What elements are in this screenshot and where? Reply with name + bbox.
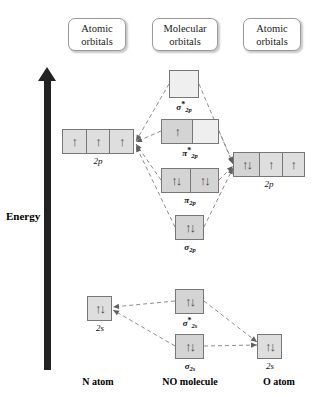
mo-sigma-2p-cell-0: ↑↓ [176, 216, 203, 239]
correlation-line-2 [136, 131, 161, 142]
mo-sigma-2s-star-cell-0: ↑↓ [176, 290, 203, 313]
mo-pi-2p-star-label-subscript: 2p [191, 152, 198, 159]
mo-sigma-2s-star-label-subscript: 2s [192, 322, 198, 329]
ao-o-2s-box: ↑↓ [257, 334, 282, 359]
ao-o-2p-cell-2-single-electron: ↑ [291, 158, 297, 171]
ao-n-2p-cell-2: ↑ [110, 130, 133, 153]
ao-n-2p-cell-1: ↑ [87, 130, 111, 153]
mo-pi-2p-star-label: π*2p [165, 146, 215, 159]
correlation-line-8 [113, 301, 175, 307]
ao-n-2p-label: 2p [73, 156, 123, 166]
ao-n-2s-box: ↑↓ [87, 296, 112, 321]
mo-pi-2p-label-subscript: 2p [189, 199, 196, 206]
mo-pi-2p-cell-1: ↑↓ [191, 169, 219, 192]
ao-o-2p-cell-1: ↑ [260, 153, 283, 176]
mo-pi-2p-label: π2p [165, 195, 215, 206]
mo-sigma-2s-label-subscript: 2s [190, 365, 196, 372]
ao-o-2p-cell-0: ↑↓ [234, 153, 260, 176]
ao-o-2p-cell-1-single-electron: ↑ [268, 158, 274, 171]
mo-sigma-2p-box: ↑↓ [175, 215, 204, 240]
header-box-2: Atomicorbitals [243, 18, 301, 51]
mo-sigma-2p-cell-0-paired-electrons: ↑↓ [185, 221, 194, 234]
caption-0: N atom [62, 376, 134, 387]
ao-o-2s-label: 2s [245, 361, 295, 371]
header-line-2: orbitals [244, 36, 300, 49]
energy-axis-bar [44, 80, 51, 370]
ao-n-2s-cell-0: ↑↓ [88, 297, 111, 320]
ao-o-2s-cell-0: ↑↓ [258, 335, 281, 358]
mo-sigma-2p-star-label-subscript: 2p [185, 106, 192, 113]
correlation-arrowhead-icon-10 [113, 310, 119, 315]
mo-pi-2p-cell-0-paired-electrons: ↑↓ [171, 174, 180, 187]
mo-sigma-2p-label-subscript: 2p [189, 246, 196, 253]
correlation-arrowhead-icon-2 [136, 137, 143, 142]
header-line-1: Atomic [244, 23, 300, 36]
ao-o-2p-cell-2: ↑ [283, 153, 305, 176]
correlation-arrowhead-icon-6 [136, 146, 141, 153]
ao-o-2p-box: ↑↓↑↑ [233, 152, 305, 177]
correlation-line-11 [204, 345, 257, 346]
mo-sigma-2p-star-label: σ*2p [159, 100, 209, 113]
header-box-0: Atomicorbitals [68, 18, 126, 51]
header-line-2: orbitals [69, 36, 125, 49]
correlation-arrowhead-icon-0 [136, 135, 141, 141]
ao-o-2p-cell-0-paired-electrons: ↑↓ [242, 158, 251, 171]
correlation-line-4 [136, 144, 161, 180]
mo-pi-2p-box: ↑↓↑↓ [161, 168, 219, 193]
mo-pi-2p-star-box: ↑ [161, 119, 219, 144]
caption-2: O atom [243, 376, 315, 387]
mo-sigma-2p-label: σ2p [165, 242, 215, 253]
ao-n-2s-cell-0-paired-electrons: ↑↓ [95, 302, 104, 315]
mo-pi-2p-star-cell-0-single-electron: ↑ [174, 125, 180, 138]
mo-sigma-2p-star-box [169, 70, 199, 98]
mo-sigma-2s-star-cell-0-paired-electrons: ↑↓ [185, 295, 194, 308]
mo-sigma-2s-box: ↑↓ [175, 334, 204, 359]
ao-n-2p-box: ↑↑↑ [62, 129, 134, 154]
mo-sigma-2s-label: σ2s [165, 361, 215, 372]
ao-n-2p-cell-1-single-electron: ↑ [95, 135, 101, 148]
header-line-1: Atomic [69, 23, 125, 36]
correlation-line-3 [219, 131, 233, 163]
mo-pi-2p-cell-0: ↑↓ [162, 169, 191, 192]
ao-n-2p-cell-2-single-electron: ↑ [119, 135, 125, 148]
header-line-1: Molecular [153, 23, 217, 36]
energy-axis-label: Energy [6, 210, 40, 222]
ao-n-2s-label: 2s [75, 323, 125, 333]
header-line-2: orbitals [153, 36, 217, 49]
mo-sigma-2p-star-cell-0 [170, 71, 198, 97]
ao-o-2s-cell-0-paired-electrons: ↑↓ [265, 340, 274, 353]
header-box-1: Molecularorbitals [152, 18, 218, 51]
correlation-line-5 [219, 166, 233, 180]
correlation-arrowhead-icon-4 [136, 144, 142, 150]
caption-1: NO molecule [145, 376, 235, 387]
correlation-arrowhead-icon-8 [113, 304, 119, 309]
energy-axis-arrowhead-icon [38, 67, 56, 81]
mo-pi-2p-star-cell-0: ↑ [162, 120, 193, 143]
ao-n-2p-cell-0-single-electron: ↑ [72, 135, 78, 148]
ao-o-2p-label: 2p [244, 179, 294, 189]
mo-pi-2p-star-cell-1 [193, 120, 218, 143]
mo-sigma-2s-cell-0-paired-electrons: ↑↓ [185, 340, 194, 353]
mo-diagram-canvas: AtomicorbitalsMolecularorbitalsAtomicorb… [0, 0, 322, 397]
mo-sigma-2s-star-box: ↑↓ [175, 289, 204, 314]
mo-sigma-2s-star-label: σ*2s [165, 316, 215, 329]
mo-sigma-2s-cell-0: ↑↓ [176, 335, 203, 358]
ao-n-2p-cell-0: ↑ [63, 130, 87, 153]
mo-pi-2p-cell-1-paired-electrons: ↑↓ [200, 174, 209, 187]
